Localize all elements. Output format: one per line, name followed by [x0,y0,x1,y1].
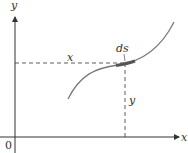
curve [68,22,174,99]
arc-length-diagram: y x 0 x ds y [0,0,188,153]
diagram-canvas: y x 0 x ds y [0,0,188,153]
ds-label: ds [116,42,129,55]
vertical-distance-label: y [128,94,136,107]
y-axis-label: y [10,0,18,12]
ds-pointer [124,54,125,61]
arc-element-ds [116,61,135,66]
horizontal-distance-label: x [67,51,74,64]
origin-label: 0 [5,139,12,152]
x-axis-label: x [181,131,188,144]
